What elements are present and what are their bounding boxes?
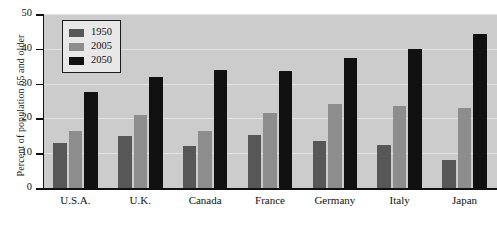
legend-item-2050: 2050 [69,54,112,67]
legend-item-1950: 1950 [69,26,112,39]
x-label-U.K.: U.K. [130,194,151,206]
y-tick-mark [36,49,43,51]
x-axis-line [43,188,497,190]
bar-1950-France [248,135,262,188]
bar-1950-Japan [442,160,456,188]
bar-2005-U.K. [134,115,148,188]
y-tick-label: 20 [2,111,32,122]
legend-swatch-icon-2005 [69,43,84,51]
bar-chart: Percent of population 65 and older 01020… [0,0,497,233]
bar-2050-U.K. [149,77,163,188]
bar-2005-Canada [198,131,212,188]
bar-2005-U.S.A. [69,131,83,188]
y-tick-label: 50 [2,7,32,18]
x-label-Japan: Japan [452,194,477,206]
legend-label-1950: 1950 [91,27,112,38]
legend-item-2005: 2005 [69,40,112,53]
y-tick-mark [36,118,43,120]
bar-2005-Germany [328,104,342,188]
bar-2050-Canada [214,70,228,188]
bar-2050-Italy [408,49,422,188]
y-tick-mark [36,188,43,190]
legend-label-2005: 2005 [91,41,112,52]
x-label-France: France [255,194,285,206]
y-tick-label: 0 [2,181,32,192]
bar-1950-U.K. [118,136,132,188]
x-label-U.S.A.: U.S.A. [60,194,90,206]
y-tick-mark [36,84,43,86]
bar-1950-Italy [377,145,391,189]
bar-1950-Canada [183,146,197,188]
bar-2050-Germany [344,58,358,189]
legend-label-2050: 2050 [91,55,112,66]
legend-swatch-icon-1950 [69,29,84,37]
bar-2005-Italy [393,106,407,188]
bar-1950-Germany [313,141,327,188]
bar-2050-Japan [473,34,487,188]
y-tick-label: 40 [2,42,32,53]
bar-2050-U.S.A. [84,92,98,188]
x-label-Germany: Germany [314,194,355,206]
y-tick-mark [36,153,43,155]
legend-swatch-icon-2050 [69,57,84,65]
legend: 1950 2005 2050 [62,20,121,73]
y-tick-label: 10 [2,146,32,157]
bar-2005-France [263,113,277,188]
y-tick-label: 30 [2,77,32,88]
x-label-Canada: Canada [189,194,222,206]
x-label-Italy: Italy [390,194,410,206]
bar-2050-France [279,71,293,188]
y-tick-mark [36,14,43,16]
bar-2005-Japan [458,108,472,188]
bar-1950-U.S.A. [53,143,67,188]
